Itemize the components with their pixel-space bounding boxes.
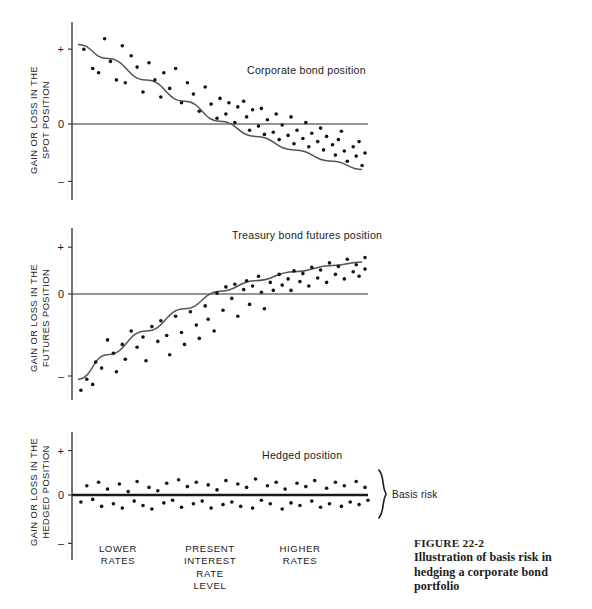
figure-caption: FIGURE 22-2 Illustration of basis risk i… [414, 536, 586, 594]
basis-risk-brace [379, 470, 386, 518]
data-point [159, 95, 163, 99]
svg-text:INTEREST: INTEREST [184, 555, 236, 566]
data-point [118, 482, 122, 486]
data-point [301, 272, 305, 276]
data-point [212, 329, 216, 333]
chart-title-hedged: Hedged position [262, 449, 342, 461]
data-point [277, 138, 281, 142]
y-tick-label-hedged-1: 0 [58, 489, 64, 501]
y-axis-label-futures: GAIN OR LOSS IN THEFUTURES POSITION [29, 264, 51, 372]
data-point [195, 323, 199, 327]
data-point [174, 67, 178, 71]
data-point [132, 499, 136, 503]
data-point [298, 280, 302, 284]
data-point [325, 281, 329, 285]
data-point [260, 107, 264, 111]
data-point [156, 340, 160, 344]
y-axis-label-spot: GAIN OR LOSS IN THESPOT POSITION [29, 66, 51, 174]
data-point [354, 154, 358, 158]
data-point [251, 506, 255, 510]
data-point [257, 274, 261, 278]
data-point [254, 477, 258, 481]
data-point [209, 506, 213, 510]
data-point [310, 266, 314, 270]
data-point [304, 485, 308, 489]
data-point [192, 92, 196, 96]
chart-title-futures: Treasury bond futures position [232, 229, 382, 241]
trend-curve-futures [78, 262, 362, 379]
data-point [280, 507, 284, 511]
data-point [236, 482, 240, 486]
y-tick-label-hedged-0: + [58, 445, 64, 457]
data-point [192, 502, 196, 506]
data-point [251, 284, 255, 288]
data-point [272, 289, 276, 293]
data-point [340, 130, 344, 134]
data-point [230, 500, 234, 504]
data-point [334, 153, 338, 157]
data-point [283, 487, 287, 491]
data-point [221, 309, 225, 313]
data-point [230, 297, 234, 301]
y-axis-label-hedged: GAIN OR LOSS IN THEHEDGED POSITION [29, 438, 51, 546]
data-point [269, 502, 273, 506]
data-point [97, 71, 101, 75]
data-point [346, 258, 350, 262]
chart-panel-futures: +0–GAIN OR LOSS IN THEFUTURES POSITIONTr… [29, 228, 382, 400]
data-point [206, 317, 210, 321]
y-tick-label-spot-0: + [58, 43, 64, 55]
data-point [289, 289, 293, 293]
data-point [239, 505, 243, 509]
data-point [263, 133, 267, 137]
data-point [280, 283, 284, 287]
data-point [298, 504, 302, 508]
data-point [91, 383, 95, 387]
data-point [135, 65, 139, 69]
data-point [277, 273, 281, 277]
data-point [263, 307, 267, 311]
svg-text:SPOT POSITION: SPOT POSITION [41, 81, 51, 159]
data-point [106, 487, 110, 491]
figure-number: FIGURE 22-2 [414, 536, 586, 550]
data-point [79, 500, 83, 504]
data-point [325, 135, 329, 139]
svg-text:LEVEL: LEVEL [194, 580, 227, 591]
data-point [304, 121, 308, 125]
data-point [168, 353, 172, 357]
data-point [295, 128, 299, 132]
data-point [340, 505, 344, 509]
data-point [366, 498, 370, 502]
data-point [165, 481, 169, 485]
data-point [224, 285, 228, 289]
data-point [360, 164, 364, 168]
x-category-higher: HIGHERRATES [280, 543, 321, 566]
data-point [85, 377, 89, 381]
data-point [295, 481, 299, 485]
data-point [227, 101, 231, 105]
svg-text:GAIN OR LOSS IN THE: GAIN OR LOSS IN THE [29, 66, 39, 174]
data-point [248, 128, 252, 132]
data-point [135, 480, 139, 484]
data-point [189, 310, 193, 314]
data-point [286, 134, 290, 138]
data-point [112, 502, 116, 506]
data-point [266, 118, 270, 122]
data-point [124, 81, 128, 85]
annotations-layer: Basis risk [379, 470, 438, 518]
data-point [289, 115, 293, 119]
data-point [91, 498, 95, 502]
data-point [147, 61, 151, 65]
data-point [328, 261, 332, 265]
data-point [150, 507, 154, 511]
data-point [186, 81, 190, 85]
data-point [351, 270, 355, 274]
x-category-lower: LOWERRATES [99, 543, 137, 566]
data-point [260, 498, 264, 502]
data-point [218, 97, 222, 101]
data-point [180, 331, 184, 335]
data-point [180, 505, 184, 509]
figure-canvas: +0–GAIN OR LOSS IN THESPOT POSITIONCorpo… [0, 0, 592, 609]
data-point [343, 149, 347, 153]
data-point [180, 101, 184, 105]
x-category-present: PRESENTINTERESTRATELEVEL [184, 543, 236, 591]
